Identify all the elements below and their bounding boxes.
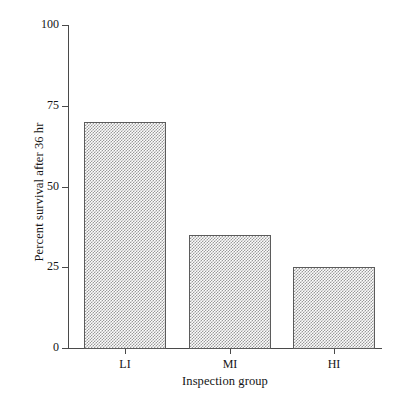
plot-area: 1007550250 LIMIHI: [68, 25, 382, 348]
y-axis-line: [68, 25, 69, 349]
x-axis-title: Inspection group: [68, 374, 382, 389]
y-tick-0: 0: [62, 348, 68, 349]
y-tick-50: 50: [62, 187, 68, 188]
y-tick-100: 100: [62, 25, 68, 26]
y-tick-label: 75: [47, 97, 59, 114]
y-tick-label: 100: [41, 16, 59, 33]
y-tick-label: 50: [47, 178, 59, 195]
bar-hi: [293, 267, 375, 349]
x-tick-label-li: LI: [95, 357, 155, 372]
bar-mi: [189, 235, 271, 349]
y-tick-label: 25: [47, 258, 59, 275]
y-tick-75: 75: [62, 106, 68, 107]
y-tick-label: 0: [53, 339, 59, 356]
bar-chart-figure: Percent survival after 36 hr 1007550250 …: [0, 0, 402, 412]
x-tick-label-hi: HI: [304, 357, 364, 372]
x-tick-label-mi: MI: [200, 357, 260, 372]
bar-li: [84, 122, 166, 349]
y-tick-25: 25: [62, 267, 68, 268]
